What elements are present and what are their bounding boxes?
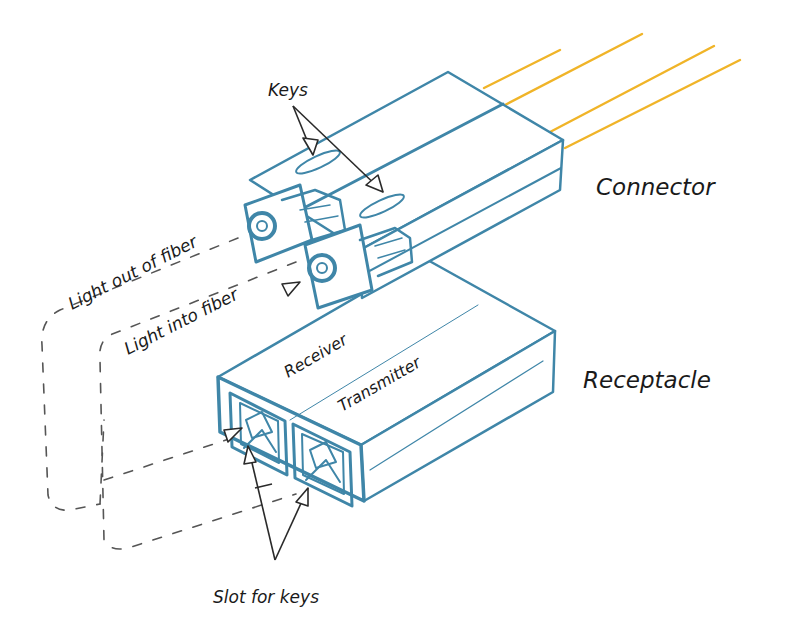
connector-body [245,72,563,308]
light-out-label: Light out of fiber [65,231,202,314]
light-into-fiber-arrowhead [282,282,300,296]
slot-for-keys-label: Slot for keys [213,587,319,607]
receptacle-label: Receptacle [583,367,711,393]
keys-label: Keys [268,80,308,100]
diagram-canvas: Keys Connector Light out of fiber Light … [0,0,785,642]
light-in-label: Light into fiber [121,284,242,359]
connector-label: Connector [596,174,716,200]
connector-diagram-svg: Keys Connector Light out of fiber Light … [0,0,785,642]
